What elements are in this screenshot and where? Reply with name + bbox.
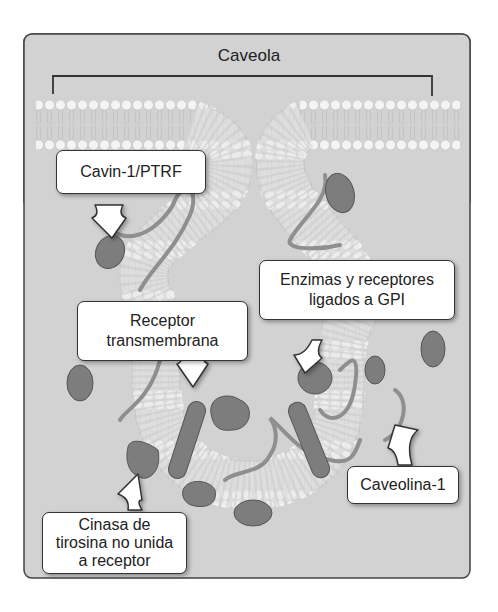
peripheral-protein-left: [67, 365, 93, 401]
label-receptor: Receptor transmembrana: [77, 301, 248, 361]
label-caveolin-text: Caveolina-1: [360, 475, 445, 495]
label-gpi-line2: ligados a GPI: [309, 290, 405, 310]
label-receptor-line2: transmembrana: [106, 331, 218, 351]
label-caveolin: Caveolina-1: [347, 466, 459, 504]
inner-protein-bottom: [234, 500, 272, 526]
inner-protein-bottom-left: [183, 481, 216, 506]
label-gpi-line1: Enzimas y receptores: [280, 270, 434, 290]
label-cavin: Cavin-1/PTRF: [56, 150, 206, 194]
caveola-title-text: Caveola: [0, 46, 498, 66]
membrane-right-flat: [300, 100, 460, 150]
label-kinase-line2: tirosina no unida: [56, 534, 173, 552]
label-gpi: Enzimas y receptores ligados a GPI: [259, 260, 455, 320]
label-cavin-text: Cavin-1/PTRF: [80, 162, 181, 182]
label-kinase: Cinasa de tirosina no unida a receptor: [42, 512, 187, 574]
label-kinase-line1: Cinasa de: [78, 516, 150, 534]
peripheral-protein-right: [421, 331, 445, 367]
peripheral-protein-right-2: [365, 356, 385, 384]
label-receptor-line1: Receptor: [130, 311, 195, 331]
label-kinase-line3: a receptor: [78, 552, 150, 570]
membrane-left-flat: [36, 100, 196, 150]
